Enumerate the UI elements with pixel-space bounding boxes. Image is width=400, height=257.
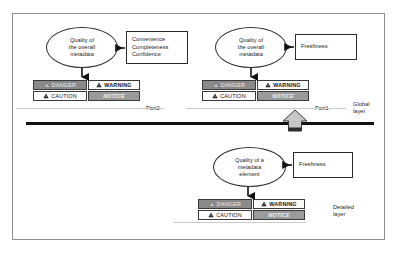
attribute-box-detail-label: Freshness [299,161,326,168]
panel-underline-part1 [186,108,346,109]
signal-panel-detail: DANGER WARNING CAUTION [198,199,305,220]
signal-row-top: DANGER WARNING [202,80,309,90]
signal-word-danger[interactable]: DANGER [198,199,252,209]
warning-triangle-icon [265,82,271,88]
signal-word-warning[interactable]: WARNING [88,80,140,90]
signal-word-danger-label: DANGER [217,201,241,207]
signal-word-caution-label: CAUTION [51,93,77,99]
ellipse-detail-quality: Quality of a metadata element [213,147,286,187]
warning-triangle-icon [261,201,267,207]
warning-triangle-icon [213,82,219,88]
attribute-box-part2-label: Convenience Completeness Confidence [132,36,168,58]
warning-triangle-icon [209,201,215,207]
attribute-box-part1-label: Freshness [301,43,328,50]
signal-row-top: DANGER WARNING [198,199,305,209]
warning-triangle-icon [208,212,214,218]
attribute-box-part2: Convenience Completeness Confidence [126,31,188,64]
panel-underline-detail [173,222,306,223]
signal-word-warning[interactable]: WARNING [253,199,305,209]
warning-triangle-icon [212,93,218,99]
signal-word-caution[interactable]: CAUTION [202,91,256,101]
layer-caption-global: Global layer [353,94,369,115]
attribute-box-part1: Freshness [295,34,357,60]
signal-word-danger-label: DANGER [52,82,76,88]
signal-word-danger[interactable]: DANGER [202,80,256,90]
signal-word-notice[interactable]: NOTICE [88,91,140,101]
ellipse-part1-quality: Quality of the overall metadata [215,27,287,68]
warning-triangle-icon [96,82,102,88]
part-label-part2: Part2 [146,98,160,112]
warning-triangle-icon [44,82,50,88]
signal-word-warning[interactable]: WARNING [257,80,309,90]
signal-panel-part2: DANGER WARNING CAUTION [33,80,140,101]
signal-word-notice-label: NOTICE [103,93,125,99]
signal-row-bottom: CAUTION NOTICE [202,91,309,101]
signal-word-notice-label: NOTICE [268,212,290,218]
signal-word-notice[interactable]: NOTICE [257,91,309,101]
signal-row-bottom: CAUTION NOTICE [33,91,140,101]
layer-caption-detailed-text: Detailed layer [333,204,354,217]
signal-word-caution-label: CAUTION [220,93,246,99]
panel-underline-part2 [16,108,164,109]
layer-caption-global-text: Global layer [353,101,369,114]
ellipse-part2-quality: Quality of the overall metadata [46,27,118,68]
signal-word-caution[interactable]: CAUTION [198,210,252,220]
warning-triangle-icon [43,93,49,99]
ellipse-part1-label: Quality of the overall metadata [238,37,264,58]
part-label-part1: Part1 [315,98,329,112]
signal-word-danger[interactable]: DANGER [33,80,87,90]
layer-divider [26,122,374,125]
attribute-box-detail: Freshness [293,152,353,178]
signal-panel-part1: DANGER WARNING CAUTION [202,80,309,101]
signal-word-warning-label: WARNING [269,201,296,207]
diagram-canvas: Quality of the overall metadata Convenie… [0,0,400,257]
signal-word-warning-label: WARNING [104,82,131,88]
signal-word-caution[interactable]: CAUTION [33,91,87,101]
signal-word-danger-label: DANGER [221,82,245,88]
signal-word-caution-label: CAUTION [216,212,242,218]
signal-word-notice[interactable]: NOTICE [253,210,305,220]
signal-row-bottom: CAUTION NOTICE [198,210,305,220]
signal-word-notice-label: NOTICE [272,93,294,99]
layer-caption-detailed: Detailed layer [333,197,354,218]
ellipse-detail-label: Quality of a metadata element [235,157,264,178]
ellipse-part2-label: Quality of the overall metadata [69,37,95,58]
signal-row-top: DANGER WARNING [33,80,140,90]
signal-word-warning-label: WARNING [273,82,300,88]
